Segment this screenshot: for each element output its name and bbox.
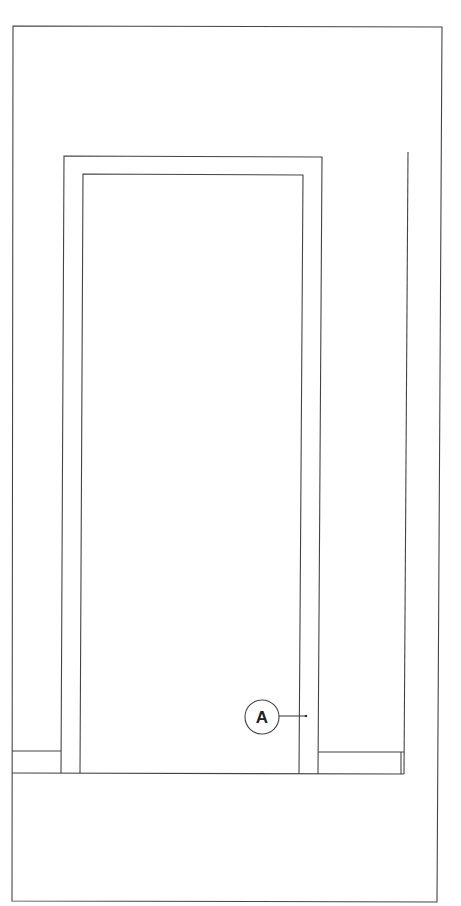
floor-line: [12, 773, 404, 774]
wall-edge-line: [404, 152, 408, 774]
callout-target-dot: [305, 715, 308, 718]
door-frame-inner: [80, 174, 303, 774]
drawing-border: [12, 26, 442, 902]
callout-label: A: [256, 708, 268, 727]
door-elevation-drawing: A: [0, 0, 461, 906]
door-casing-outer: [61, 156, 322, 774]
callout-a: A: [245, 700, 307, 734]
